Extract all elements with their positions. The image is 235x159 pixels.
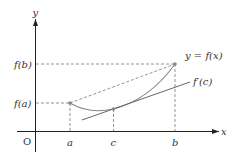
tick-label-c: c: [111, 137, 117, 148]
tick-label-a: a: [67, 137, 73, 148]
secant-line: [70, 64, 175, 103]
tick-label-fa: f(a): [13, 98, 32, 109]
y-axis-label: y: [32, 7, 39, 18]
point-b: [173, 62, 177, 66]
tangent-label: f′(c): [192, 76, 212, 87]
tick-label-fb: f(b): [13, 59, 32, 70]
guide-lines: [36, 64, 175, 131]
curve-fx: [70, 64, 175, 111]
tangent-line: [82, 82, 190, 120]
mvt-diagram: y x O a c b f(b) f(a) y = f(x) f′(c): [0, 0, 235, 159]
tick-label-b: b: [172, 137, 178, 148]
curve-label: y = f(x): [184, 50, 223, 61]
point-c: [112, 107, 116, 111]
origin-label: O: [23, 136, 31, 147]
x-axis-label: x: [221, 126, 227, 137]
point-a: [68, 101, 72, 105]
